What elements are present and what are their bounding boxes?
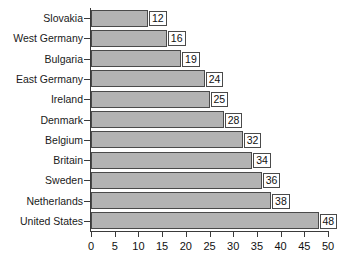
- category-label-west-germany: West Germany: [0, 33, 83, 44]
- bar-chart: SlovakiaWest GermanyBulgariaEast Germany…: [0, 0, 338, 261]
- bar-value-label: 12: [149, 11, 167, 26]
- bar-row[interactable]: [91, 172, 262, 189]
- x-axis-tick: [257, 231, 258, 237]
- bar-row[interactable]: [91, 50, 181, 67]
- y-axis-tick: [84, 221, 90, 222]
- x-axis-tick: [91, 231, 92, 237]
- bar-value-label: 28: [225, 113, 243, 128]
- bar-value-label: 16: [168, 31, 186, 46]
- x-axis-tick-label: 50: [322, 240, 334, 252]
- bar[interactable]: [91, 111, 224, 128]
- x-axis-tick: [304, 231, 305, 237]
- bar[interactable]: [91, 30, 167, 47]
- x-axis-tick-label: 15: [156, 240, 168, 252]
- bar[interactable]: [91, 152, 252, 169]
- bar-row[interactable]: [91, 91, 210, 108]
- bar[interactable]: [91, 172, 262, 189]
- x-axis-tick-label: 35: [251, 240, 263, 252]
- x-axis-tick-label: 20: [180, 240, 192, 252]
- bar-value-label: 25: [211, 92, 229, 107]
- bar[interactable]: [91, 131, 243, 148]
- x-axis-tick: [210, 231, 211, 237]
- y-axis-tick: [84, 201, 90, 202]
- category-label-ireland: Ireland: [0, 94, 83, 105]
- cropped-title-remnant: [14, 0, 314, 3]
- x-axis-tick-label: 5: [112, 240, 118, 252]
- bar-row[interactable]: [91, 131, 243, 148]
- bar-row[interactable]: [91, 10, 148, 27]
- bar-row[interactable]: [91, 111, 224, 128]
- category-label-bulgaria: Bulgaria: [0, 54, 83, 65]
- bar[interactable]: [91, 91, 210, 108]
- y-axis-tick: [84, 59, 90, 60]
- category-label-belgium: Belgium: [0, 135, 83, 146]
- x-axis-tick: [162, 231, 163, 237]
- x-axis-tick-label: 30: [227, 240, 239, 252]
- bar-value-label: 24: [206, 72, 224, 87]
- x-axis-tick-label: 45: [298, 240, 310, 252]
- category-label-sweden: Sweden: [0, 175, 83, 186]
- bar-value-label: 32: [244, 133, 262, 148]
- bar-value-label: 36: [263, 173, 281, 188]
- x-axis-tick: [138, 231, 139, 237]
- bar-row[interactable]: [91, 192, 271, 209]
- bar[interactable]: [91, 10, 148, 27]
- y-axis-tick: [84, 120, 90, 121]
- x-axis-tick-label: 25: [203, 240, 215, 252]
- bar[interactable]: [91, 212, 319, 229]
- x-axis-tick: [281, 231, 282, 237]
- category-label-netherlands: Netherlands: [0, 196, 83, 207]
- x-axis-tick-label: 40: [274, 240, 286, 252]
- bar-row[interactable]: [91, 152, 252, 169]
- bar-row[interactable]: [91, 212, 319, 229]
- bar-value-label: 48: [320, 214, 338, 229]
- category-label-united-states: United States: [0, 216, 83, 227]
- category-label-britain: Britain: [0, 155, 83, 166]
- category-label-east-germany: East Germany: [0, 74, 83, 85]
- bar[interactable]: [91, 192, 271, 209]
- bar-value-label: 34: [253, 153, 271, 168]
- x-axis-tick-label: 0: [88, 240, 94, 252]
- y-axis-tick: [84, 140, 90, 141]
- y-axis-tick: [84, 38, 90, 39]
- bar-value-label: 38: [272, 194, 290, 209]
- y-axis-tick: [84, 180, 90, 181]
- y-axis-tick: [84, 160, 90, 161]
- bar[interactable]: [91, 70, 205, 87]
- y-axis-tick: [84, 99, 90, 100]
- bar[interactable]: [91, 50, 181, 67]
- x-axis-tick: [233, 231, 234, 237]
- x-axis-tick: [186, 231, 187, 237]
- category-axis-labels: SlovakiaWest GermanyBulgariaEast Germany…: [0, 8, 83, 231]
- category-label-denmark: Denmark: [0, 115, 83, 126]
- x-axis-tick-label: 10: [132, 240, 144, 252]
- category-label-slovakia: Slovakia: [0, 13, 83, 24]
- y-axis-tick: [84, 18, 90, 19]
- bar-value-label: 19: [182, 52, 200, 67]
- x-axis-tick: [115, 231, 116, 237]
- y-axis-tick: [84, 79, 90, 80]
- x-axis-tick: [328, 231, 329, 237]
- bar-row[interactable]: [91, 70, 205, 87]
- bar-row[interactable]: [91, 30, 167, 47]
- plot-area: 1216192425283234363848051015202530354045…: [91, 8, 328, 231]
